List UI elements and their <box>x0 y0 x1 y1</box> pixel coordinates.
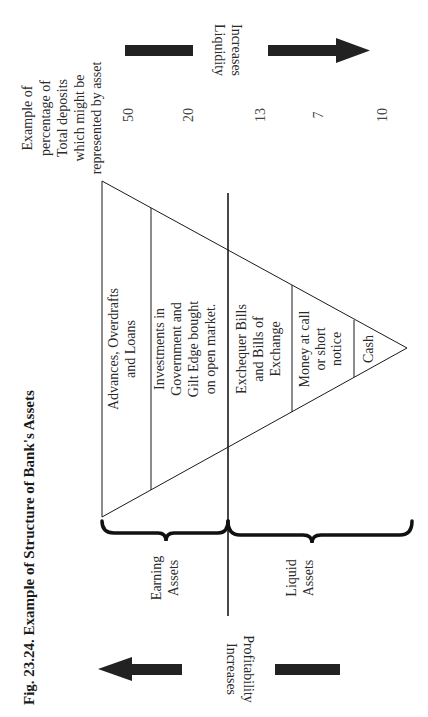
header-line: which might be <box>72 74 87 161</box>
percent-cash: 10 <box>375 108 390 122</box>
segment-label-line: Advances, Overdrafts <box>106 288 121 410</box>
segment-money-at-call: Money at call or short notice <box>297 310 344 387</box>
braces <box>102 521 412 543</box>
header-line: Example of <box>20 85 35 150</box>
segment-label-line: notice <box>329 332 344 366</box>
profitability-arrow: Profitability Increases <box>98 635 340 703</box>
segment-label-line: Investments in <box>152 308 167 390</box>
liquidity-label-line1: Liquidity <box>212 24 227 76</box>
segment-label-line: Money at call <box>297 310 312 387</box>
liquidity-arrow-shaft <box>268 45 344 56</box>
bank-assets-diagram: Fig. 23.24. Example of Structure of Bank… <box>0 0 428 717</box>
liquidity-arrow-tail <box>125 45 193 56</box>
segment-advances: Advances, Overdrafts and Loans <box>106 288 138 410</box>
percent-exchequer: 13 <box>253 108 268 122</box>
percent-advances: 50 <box>121 108 136 122</box>
earning-assets-brace <box>102 521 228 541</box>
liquid-assets-brace <box>228 521 412 543</box>
segment-label-line: Gilt Edge bought <box>186 301 201 398</box>
segment-label-line: on open market. <box>203 304 218 395</box>
diagram-page: Fig. 23.24. Example of Structure of Bank… <box>0 0 428 717</box>
group-earning-assets: Earning Assets <box>149 556 181 600</box>
segment-label-line: and Loans <box>123 320 138 378</box>
segment-label-line: Government and <box>169 302 184 396</box>
group-label-line: Assets <box>301 560 316 597</box>
segment-cash: Cash <box>361 335 376 363</box>
segment-label-line: Cash <box>361 335 376 363</box>
segment-label-line: or short <box>313 327 328 370</box>
percentage-header: Example of percentage of Total deposits … <box>20 62 104 175</box>
segment-label-line: Exchange <box>268 321 283 376</box>
asset-triangle <box>102 181 407 616</box>
segment-exchequer: Exchequer Bills and Bills of Exchange <box>234 304 283 394</box>
segment-investments: Investments in Government and Gilt Edge … <box>152 301 218 398</box>
group-label-line: Liquid <box>284 559 299 596</box>
liquidity-arrow: Liquidity Increases <box>125 24 370 76</box>
profitability-label-line2: Increases <box>224 643 239 695</box>
arrow-right-icon <box>336 38 370 63</box>
arrow-left-icon <box>98 657 132 681</box>
segment-label-line: Exchequer Bills <box>234 304 249 394</box>
profitability-label-line1: Profitability <box>241 635 256 703</box>
percent-money-at-call: 7 <box>311 112 326 119</box>
percentages: 50 20 13 7 10 <box>121 108 390 122</box>
profitability-arrow-tail <box>275 664 340 675</box>
group-label-line: Earning <box>149 556 164 600</box>
liquidity-label-line2: Increases <box>229 24 244 76</box>
group-label-line: Assets <box>166 560 181 597</box>
header-line: represented by asset <box>89 62 104 175</box>
header-line: Total deposits <box>55 79 70 157</box>
figure-title: Fig. 23.24. Example of Structure of Bank… <box>21 390 37 705</box>
group-liquid-assets: Liquid Assets <box>284 559 316 596</box>
profitability-arrow-shaft <box>128 664 182 675</box>
header-line: percentage of <box>38 80 53 156</box>
segment-label-line: and Bills of <box>251 316 266 382</box>
percent-investments: 20 <box>181 108 196 122</box>
